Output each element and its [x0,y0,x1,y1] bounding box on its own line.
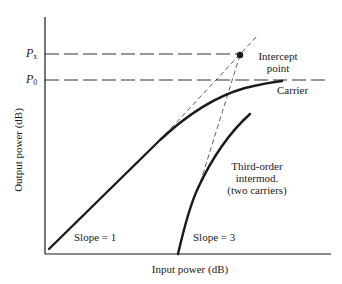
intermod-label: Third-order intermod. (two carriers) [217,160,297,196]
y-axis-label: Output power (dB) [12,100,24,200]
carrier-label: Carrier [277,84,308,96]
intercept-label: Intercept point [246,50,310,74]
p0-label: P0 [26,73,37,89]
px-label: Px [26,47,37,63]
x-axis-label: Input power (dB) [110,263,270,275]
diagram-canvas [0,0,342,284]
slope1-label: Slope = 1 [74,231,116,243]
intercept-point-marker [237,52,243,58]
slope3-label: Slope = 3 [193,231,235,243]
